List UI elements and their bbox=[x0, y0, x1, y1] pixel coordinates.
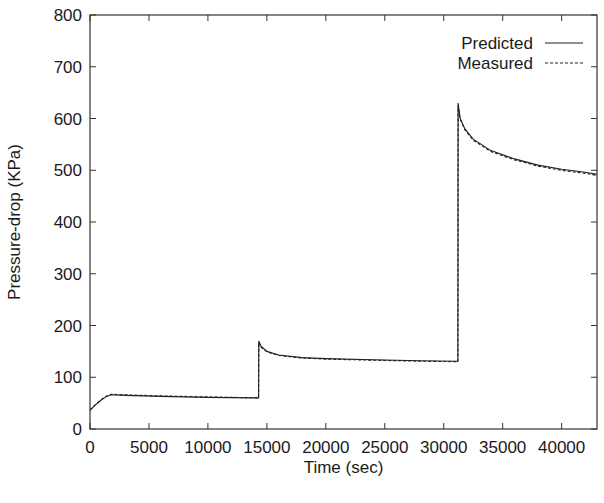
series-predicted bbox=[90, 103, 597, 410]
x-tick-label: 35000 bbox=[479, 438, 526, 457]
x-tick-label: 25000 bbox=[361, 438, 408, 457]
legend: Predicted Measured bbox=[457, 34, 583, 73]
x-tick-label: 15000 bbox=[243, 438, 290, 457]
legend-label-measured: Measured bbox=[457, 54, 533, 73]
legend-label-predicted: Predicted bbox=[461, 34, 533, 53]
line-chart: 0100200300400500600700800 05000100001500… bbox=[0, 0, 604, 503]
x-axis-ticks: 0500010000150002000025000300003500040000 bbox=[85, 15, 585, 457]
y-tick-label: 300 bbox=[54, 265, 82, 284]
y-tick-label: 0 bbox=[73, 420, 82, 439]
y-tick-label: 800 bbox=[54, 6, 82, 25]
plot-series bbox=[90, 103, 597, 410]
y-tick-label: 700 bbox=[54, 58, 82, 77]
series-measured bbox=[90, 106, 597, 410]
x-tick-label: 40000 bbox=[538, 438, 585, 457]
x-axis-label: Time (sec) bbox=[304, 458, 384, 477]
x-tick-label: 5000 bbox=[130, 438, 168, 457]
y-tick-label: 100 bbox=[54, 368, 82, 387]
y-tick-label: 400 bbox=[54, 213, 82, 232]
y-tick-label: 500 bbox=[54, 161, 82, 180]
y-axis-label: Pressure-drop (KPa) bbox=[5, 144, 24, 300]
plot-frame bbox=[90, 15, 597, 429]
x-tick-label: 30000 bbox=[420, 438, 467, 457]
y-tick-label: 600 bbox=[54, 110, 82, 129]
y-tick-label: 200 bbox=[54, 317, 82, 336]
x-tick-label: 10000 bbox=[184, 438, 231, 457]
x-tick-label: 0 bbox=[85, 438, 94, 457]
x-tick-label: 20000 bbox=[302, 438, 349, 457]
